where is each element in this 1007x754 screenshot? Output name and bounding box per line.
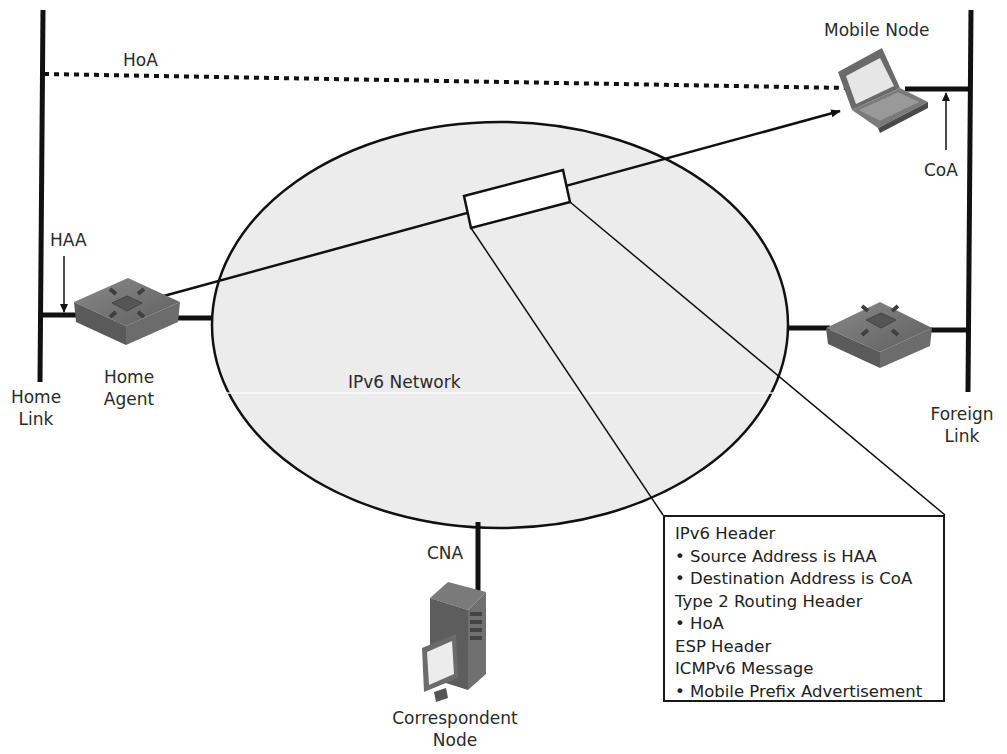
foreign-link-label: Foreign Link <box>924 403 1000 447</box>
hoa-label: HoA <box>123 49 158 71</box>
ipv6-network-ellipse <box>212 122 788 528</box>
info-line: HoA <box>675 613 943 636</box>
correspondent-node-label: Correspondent Node <box>380 707 530 751</box>
mobile-node-label: Mobile Node <box>824 19 930 41</box>
hoa-dotted-line <box>44 74 848 88</box>
home-link <box>40 10 43 382</box>
coa-label: CoA <box>924 159 958 181</box>
foreign-router-icon <box>826 302 932 368</box>
packet-info-box: IPv6 Header Source Address is HAA Destin… <box>663 515 945 702</box>
info-line: Destination Address is CoA <box>675 568 943 591</box>
info-line: IPv6 Header <box>675 523 943 546</box>
info-line: ICMPv6 Message <box>675 658 943 681</box>
home-link-label: Home Link <box>5 386 67 430</box>
info-line: ESP Header <box>675 636 943 659</box>
haa-label: HAA <box>50 229 87 251</box>
home-agent-router-icon <box>74 278 180 345</box>
info-line: Mobile Prefix Advertisement <box>675 681 943 704</box>
server-workstation-icon <box>422 582 486 702</box>
info-line: Type 2 Routing Header <box>675 591 943 614</box>
foreign-link <box>968 10 971 392</box>
info-line: Source Address is HAA <box>675 546 943 569</box>
cna-label: CNA <box>427 542 463 564</box>
ipv6-network-label: IPv6 Network <box>348 371 461 393</box>
home-agent-label: Home Agent <box>94 366 164 410</box>
